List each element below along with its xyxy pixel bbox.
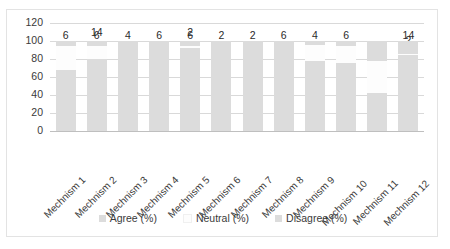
legend-label: Agree (%) (110, 212, 157, 224)
bar-segment[interactable] (118, 41, 138, 45)
bar-segment[interactable] (305, 41, 325, 45)
bar-segment[interactable] (211, 41, 231, 43)
bar-segment[interactable] (211, 43, 231, 131)
bar-segment[interactable] (56, 46, 76, 69)
bar-segment[interactable] (243, 43, 263, 131)
bar-column[interactable] (274, 23, 294, 131)
y-tick-label: 120 (25, 17, 43, 27)
x-axis-line (50, 131, 424, 132)
bar-segment[interactable] (87, 46, 107, 59)
bar-segment[interactable] (243, 41, 263, 43)
bar-column[interactable] (149, 23, 169, 131)
bar-segment[interactable] (398, 54, 418, 56)
bar-column[interactable] (398, 23, 418, 131)
bar-column[interactable] (118, 23, 138, 131)
legend-label: Neutral (%) (196, 212, 249, 224)
bar-segment[interactable] (367, 41, 387, 61)
chart-container: 020406080100120 682668014696494692269829… (6, 9, 438, 237)
x-axis-category-labels: Mechnism 1Mechnism 2Mechnism 3Mechnism 4… (50, 134, 430, 206)
bar-segment[interactable] (180, 48, 200, 131)
bar-segment[interactable] (336, 46, 356, 62)
bar-segment[interactable] (149, 41, 169, 46)
bar-column[interactable] (367, 23, 387, 131)
bar-segment[interactable] (118, 45, 138, 131)
y-tick-label: 60 (31, 71, 43, 81)
y-tick-label: 0 (37, 125, 43, 135)
plot-area: 6826680146964946922698298294678184761864… (50, 23, 424, 131)
bar-column[interactable] (305, 23, 325, 131)
legend-swatch-icon (99, 215, 106, 222)
bar-column[interactable] (56, 23, 76, 131)
legend-item[interactable]: Agree (%) (99, 212, 157, 224)
legend-swatch-icon (275, 215, 282, 222)
legend-swatch-icon (183, 214, 192, 223)
legend-item[interactable]: Neutral (%) (183, 212, 249, 224)
y-tick-label: 20 (31, 107, 43, 117)
bar-segment[interactable] (56, 70, 76, 131)
bar-column[interactable] (211, 23, 231, 131)
legend-item[interactable]: Disagree (%) (275, 212, 347, 224)
bar-segment[interactable] (87, 59, 107, 131)
bar-segment[interactable] (305, 61, 325, 131)
bar-segment[interactable] (149, 46, 169, 131)
bar-segment[interactable] (180, 41, 200, 46)
bar-segment[interactable] (336, 41, 356, 46)
chart-legend: Agree (%)Neutral (%)Disagree (%) (7, 208, 439, 228)
y-tick-label: 40 (31, 89, 43, 99)
y-tick-label: 80 (31, 53, 43, 63)
bar-segment[interactable] (336, 63, 356, 131)
bar-segment[interactable] (367, 93, 387, 131)
bar-column[interactable] (243, 23, 263, 131)
y-tick-label: 100 (25, 35, 43, 45)
bar-segment[interactable] (180, 46, 200, 48)
bar-segment[interactable] (367, 61, 387, 93)
y-axis: 020406080100120 (13, 16, 47, 138)
bar-segment[interactable] (398, 41, 418, 54)
bar-segment[interactable] (274, 46, 294, 131)
bar-column[interactable] (336, 23, 356, 131)
bar-segment[interactable] (87, 41, 107, 46)
bar-segment[interactable] (274, 41, 294, 46)
bar-segment[interactable] (305, 45, 325, 61)
legend-label: Disagree (%) (286, 212, 347, 224)
bar-segment[interactable] (56, 41, 76, 46)
bar-column[interactable] (180, 23, 200, 131)
bar-column[interactable] (87, 23, 107, 131)
bar-segment[interactable] (398, 55, 418, 131)
